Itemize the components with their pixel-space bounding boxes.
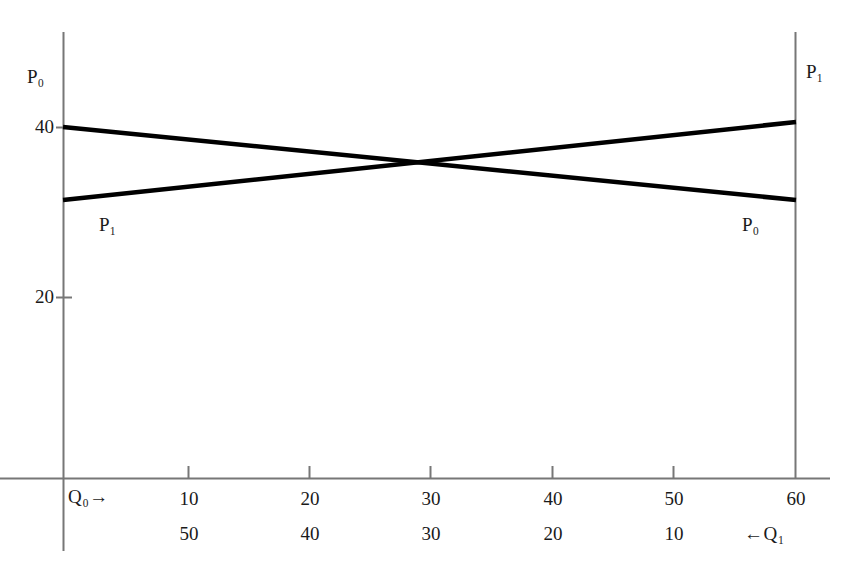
x-tick-label-row2-50: 50: [180, 524, 199, 543]
x-tick-label-row1-60: 60: [787, 489, 806, 508]
y-axis-top-label: P₀: [27, 67, 44, 86]
y-tick-label-20-text: 20: [35, 287, 54, 306]
x-tick-label-row1-50: 50: [665, 489, 684, 508]
x-tick-label-row2-30: 30: [422, 524, 441, 543]
series-label-p1-left: P₁: [99, 215, 116, 234]
chart-plot-area: [0, 0, 861, 572]
x-tick-label-row1-20: 20: [301, 489, 320, 508]
series-label-p0-right: P₀: [742, 215, 759, 234]
x-tick-label-row1-40: 40: [544, 489, 563, 508]
right-axis-top-label: P₁: [806, 62, 823, 81]
x-axis-end-label-q1: ←Q₁: [744, 524, 785, 543]
x-tick-label-row2-20: 20: [544, 524, 563, 543]
x-axis-origin-label-q0: Q₀→: [68, 487, 109, 506]
x-tick-label-row2-40: 40: [301, 524, 320, 543]
y-tick-label-40-text: 40: [35, 117, 54, 136]
x-tick-label-row1-30: 30: [422, 489, 441, 508]
chart-figure: P₀ 40 20 P₁ P₁ P₀ Q₀→ 10 20 30 40 50 60 …: [0, 0, 861, 572]
x-tick-label-row2-10: 10: [665, 524, 684, 543]
x-tick-label-row1-10: 10: [180, 489, 199, 508]
